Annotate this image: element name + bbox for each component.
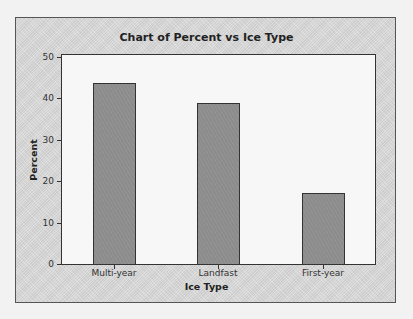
chart-title: Chart of Percent vs Ice Type bbox=[0, 31, 413, 44]
y-tick bbox=[57, 264, 61, 265]
y-tick-label: 0 bbox=[48, 259, 54, 269]
x-axis-label: Ice Type bbox=[0, 281, 413, 292]
y-axis-label: Percent bbox=[28, 139, 39, 180]
bar-multi-year bbox=[93, 83, 136, 265]
x-tick-label: First-year bbox=[283, 268, 363, 278]
y-tick bbox=[57, 98, 61, 99]
y-tick bbox=[57, 57, 61, 58]
x-tick-label: Landfast bbox=[178, 268, 258, 278]
y-tick-label: 10 bbox=[43, 218, 54, 228]
y-tick bbox=[57, 181, 61, 182]
bar-first-year bbox=[302, 193, 345, 265]
bar-landfast bbox=[197, 103, 240, 265]
x-tick-label: Multi-year bbox=[74, 268, 154, 278]
y-tick-label: 50 bbox=[43, 52, 54, 62]
y-tick-label: 40 bbox=[43, 93, 54, 103]
y-tick-label: 30 bbox=[43, 135, 54, 145]
y-tick bbox=[57, 223, 61, 224]
y-tick-label: 20 bbox=[43, 176, 54, 186]
y-tick bbox=[57, 140, 61, 141]
